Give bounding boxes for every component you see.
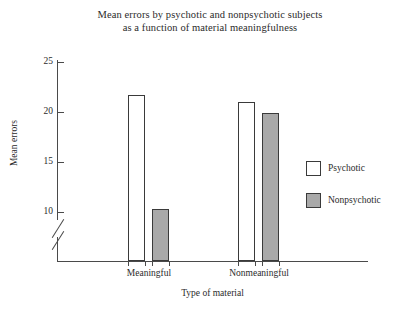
y-tick-label-10: 10 (13, 206, 53, 216)
x-tick-8 (279, 262, 280, 266)
x-tick-5 (238, 262, 239, 266)
y-tick-15 (58, 162, 64, 163)
legend-swatch-psychotic (306, 161, 321, 176)
y-tick-label-20: 20 (13, 106, 53, 116)
chart-figure: Mean errors by psychotic and nonpsychoti… (0, 0, 413, 314)
x-group-label-meaningful: Meaningful (99, 268, 199, 278)
legend-label-psychotic: Psychotic (328, 163, 365, 173)
x-tick-2 (145, 262, 146, 266)
x-tick-4 (169, 262, 170, 266)
axis-break-slash-upper (52, 219, 65, 238)
y-axis-line (57, 60, 58, 220)
legend-item-psychotic: Psychotic (306, 152, 411, 184)
bar-nonmeaningful-nonpsychotic (262, 113, 279, 261)
y-tick-25 (58, 62, 64, 63)
x-group-label-nonmeaningful: Nonmeaningful (199, 268, 319, 278)
bar-nonmeaningful-psychotic (238, 102, 255, 261)
x-axis-line (57, 261, 368, 262)
y-axis-title: Mean errors (9, 108, 19, 178)
legend-item-nonpsychotic: Nonpsychotic (306, 184, 411, 216)
y-tick-20 (58, 112, 64, 113)
x-tick-6 (255, 262, 256, 266)
y-tick-10 (58, 212, 64, 213)
x-tick-3 (152, 262, 153, 266)
y-tick-label-25: 25 (13, 56, 53, 66)
y-tick-label-15: 15 (13, 156, 53, 166)
chart-legend: Psychotic Nonpsychotic (306, 152, 411, 216)
bar-meaningful-psychotic (128, 95, 145, 261)
x-tick-1 (128, 262, 129, 266)
x-tick-7 (262, 262, 263, 266)
legend-label-nonpsychotic: Nonpsychotic (328, 195, 381, 205)
bar-meaningful-nonpsychotic (152, 209, 169, 261)
x-axis-title: Type of material (57, 288, 368, 298)
legend-swatch-nonpsychotic (306, 193, 321, 208)
